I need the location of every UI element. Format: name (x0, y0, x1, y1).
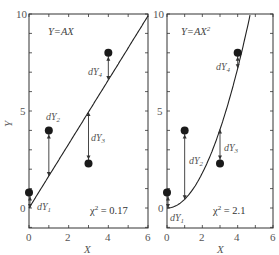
data-point (216, 159, 224, 167)
right-xtick-0: 0 (164, 231, 170, 243)
left-ytick-0: 0 (20, 202, 26, 214)
right-ytick-10: 10 (153, 8, 165, 20)
left-xtick-2: 2 (65, 231, 71, 243)
left-xtick-4: 4 (105, 231, 111, 243)
right-xtick-2: 2 (199, 231, 205, 243)
left-dy2-label: dY2 (46, 111, 61, 124)
left-xtick-6: 6 (145, 231, 151, 243)
data-point (163, 188, 171, 196)
right-xtick-6: 6 (270, 231, 276, 243)
right-model-label: Y=AX2 (181, 25, 211, 37)
right-dy1-label: dY1 (170, 212, 184, 225)
left-dy1-label: dY1 (37, 201, 51, 214)
right-residuals (166, 53, 240, 208)
left-panel: 10 5 0 0 2 4 6 X Y Y=AX χ2 = 0.17 dY1 dY… (2, 8, 151, 255)
left-model-label: Y=AX (48, 26, 74, 37)
data-point (25, 188, 33, 196)
left-ytick-5: 5 (20, 105, 26, 117)
left-x-axis-label: X (83, 243, 92, 255)
right-ytick-0: 0 (158, 202, 164, 214)
data-point (45, 126, 53, 134)
right-fit-curve (167, 15, 250, 208)
right-panel: 10 5 0 0 2 4 6 X Y=AX2 χ2 = 2.1 dY1 dY2 … (153, 8, 276, 255)
chart-canvas: 10 5 0 0 2 4 6 X Y Y=AX χ2 = 0.17 dY1 dY… (0, 0, 279, 255)
data-point (181, 126, 189, 134)
left-dy4-label: dY4 (88, 66, 103, 79)
data-point (85, 159, 93, 167)
right-xtick-4: 4 (234, 231, 240, 243)
left-chi-squared: χ2 = 0.17 (89, 204, 128, 216)
right-x-axis-label: X (216, 243, 225, 255)
right-dy4-label: dY4 (216, 61, 231, 74)
data-point (234, 49, 242, 57)
left-dy3-label: dY3 (91, 132, 106, 145)
right-plot-frame (167, 14, 273, 228)
y-axis-label: Y (2, 119, 14, 127)
right-ytick-5: 5 (157, 105, 163, 117)
right-dy3-label: dY3 (224, 142, 239, 155)
data-point (104, 49, 112, 57)
right-dy2-label: dY2 (189, 155, 204, 168)
figure: 10 5 0 0 2 4 6 X Y Y=AX χ2 = 0.17 dY1 dY… (0, 0, 279, 255)
right-chi-squared: χ2 = 2.1 (212, 204, 245, 216)
left-ytick-10: 10 (16, 8, 28, 20)
right-ticks (167, 14, 273, 228)
left-xtick-0: 0 (26, 231, 32, 243)
